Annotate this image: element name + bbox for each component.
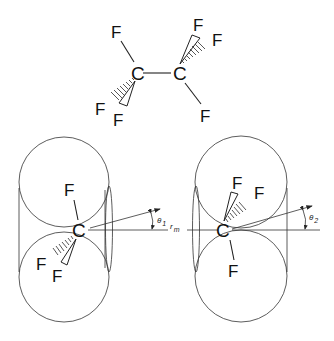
molecular-diagram: C C F F F F F F C F F F: [0, 0, 334, 341]
theta2-arc: [303, 210, 306, 229]
atom-c-left: C: [131, 63, 145, 84]
right-atom-f-hash: F: [254, 184, 264, 203]
theta1-label: θ1: [157, 216, 166, 227]
wedge-bond-left: [119, 81, 135, 106]
atom-f-right-wedge: F: [193, 16, 203, 35]
right-side-ellipse: [193, 186, 200, 272]
atom-f-left-hash: F: [95, 100, 105, 119]
right-atom-c: C: [216, 220, 230, 241]
left-atom-f-wedge: F: [52, 267, 62, 286]
atom-c-right: C: [173, 63, 187, 84]
right-atom-f-wedge: F: [232, 174, 242, 193]
right-wedge-bond: [224, 192, 238, 221]
left-atom-f-hash: F: [36, 255, 46, 274]
right-atom-f-bottom: F: [228, 262, 238, 281]
theta2-label: θ2: [309, 213, 318, 224]
lower-left-structure: C F F F θ1: [19, 137, 166, 322]
right-bond-bottom-f: [230, 240, 234, 260]
atom-f-right-hash: F: [212, 31, 222, 50]
right-bottom-circle: [195, 230, 287, 322]
left-atom-c: C: [72, 220, 86, 241]
left-vector-arrow: [90, 209, 160, 228]
left-bond-top-f: [74, 200, 78, 220]
lower-right-structure: C F F F θ2: [193, 136, 321, 322]
bond-left-top-f: [121, 41, 134, 62]
left-side-ellipse: [106, 186, 113, 272]
top-molecule: C C F F F F F F: [95, 16, 222, 130]
atom-f-left-top: F: [111, 23, 121, 42]
left-bottom-circle: [19, 232, 109, 322]
rm-label: rm: [170, 222, 180, 233]
theta1-arc: [151, 213, 153, 229]
atom-f-right-bottom: F: [200, 107, 210, 126]
right-vector-arrow: [232, 206, 312, 229]
atom-f-left-wedge: F: [113, 111, 123, 130]
left-atom-f-top: F: [64, 181, 74, 200]
bond-right-bottom-f: [185, 83, 201, 104]
